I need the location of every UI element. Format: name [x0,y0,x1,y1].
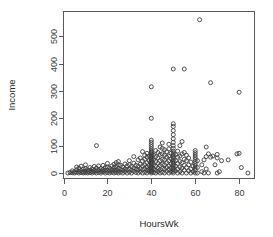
data-point [213,163,217,167]
plot-canvas: 020406080 0100200300400500 HoursWk Incom… [0,0,273,237]
x-tick-label: 60 [190,188,200,198]
data-point [176,149,180,153]
x-tick-label: 0 [62,188,67,198]
y-tick-label: 300 [49,84,59,99]
data-point [239,166,243,170]
data-point [149,85,153,89]
data-point [246,171,250,175]
data-point [171,67,175,71]
data-point [167,142,171,146]
scatter-plot-figure: 020406080 0100200300400500 HoursWk Incom… [0,0,273,237]
plot-frame [64,12,255,179]
y-axis-ticks [59,37,64,174]
y-tick-label: 500 [49,29,59,44]
x-axis-title: HoursWk [139,218,178,229]
data-point [149,116,153,120]
x-axis-ticks [65,179,240,184]
data-point [209,81,213,85]
data-point [171,129,175,133]
data-point [171,122,175,126]
data-point [182,67,186,71]
data-point [160,141,164,145]
plot-frame-group [64,12,255,179]
x-tick-label: 20 [102,188,112,198]
data-point [189,160,193,164]
x-tick-label: 40 [146,188,156,198]
x-tick-label: 80 [234,188,244,198]
data-point [204,145,208,149]
data-point [220,159,224,163]
data-point [200,163,204,167]
data-point [180,140,184,144]
x-axis-tick-labels: 020406080 [62,188,245,198]
y-tick-label: 200 [49,111,59,126]
data-point [94,144,98,148]
data-point [132,155,136,159]
data-point [127,159,131,163]
y-axis-title: Income [6,79,17,110]
y-tick-label: 100 [49,139,59,154]
data-point [167,147,171,151]
data-point [237,90,241,94]
data-point [178,144,182,148]
data-point [204,167,208,171]
y-axis-tick-labels: 0100200300400500 [49,29,59,176]
data-point [206,171,210,175]
data-point [171,133,175,137]
data-point [226,158,230,162]
y-tick-label: 400 [49,57,59,72]
data-points-layer [66,18,250,175]
data-point [198,18,202,22]
data-point [187,156,191,160]
y-tick-label: 0 [49,171,59,176]
